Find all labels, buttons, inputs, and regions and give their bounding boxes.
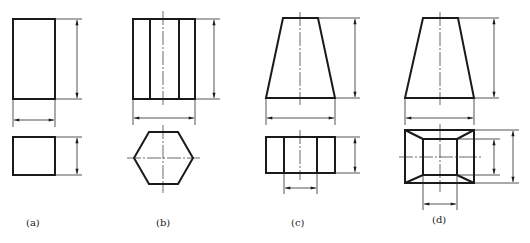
panel-c: (c) bbox=[266, 12, 360, 228]
panel-b: (b) bbox=[127, 11, 220, 228]
panel-label-d: (d) bbox=[432, 214, 446, 225]
top-view-rect bbox=[13, 137, 55, 175]
panel-label-a: (a) bbox=[26, 217, 40, 228]
projection-drawing: (a) (b) (c) bbox=[0, 0, 530, 243]
panel-label-b: (b) bbox=[156, 217, 170, 228]
trapezoid-front-view bbox=[266, 18, 335, 98]
top-view-rect bbox=[266, 137, 335, 173]
panel-label-c: (c) bbox=[291, 217, 305, 228]
panel-d: (d) bbox=[399, 12, 519, 225]
front-view-rect bbox=[133, 19, 195, 99]
trapezoid-front-view bbox=[405, 18, 474, 98]
front-view-rect bbox=[13, 19, 55, 99]
panel-a: (a) bbox=[13, 19, 82, 228]
